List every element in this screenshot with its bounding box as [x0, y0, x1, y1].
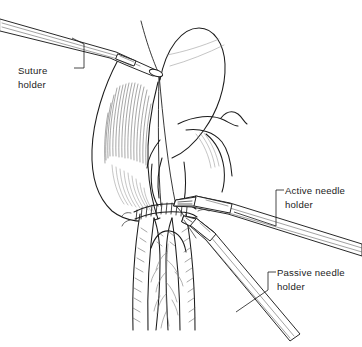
- label-suture-holder-line2: holder: [18, 79, 46, 90]
- label-passive-needle-holder-line1: Passive needle: [277, 267, 345, 278]
- label-suture-holder-line1: Suture: [18, 65, 47, 76]
- label-active-needle-holder-line2: holder: [285, 199, 313, 210]
- label-active-needle-holder-line1: Active needle: [285, 185, 345, 196]
- label-passive-needle-holder-line2: holder: [277, 281, 305, 292]
- illustration-canvas: Suture holder Active needle holder Passi…: [0, 0, 362, 347]
- surgical-illustration-figure: Suture holder Active needle holder Passi…: [0, 0, 362, 347]
